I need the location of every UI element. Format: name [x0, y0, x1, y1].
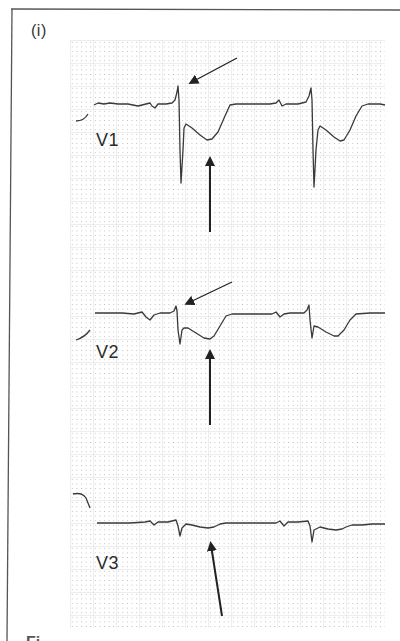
figure-caption-fragment: Fi [26, 634, 40, 641]
lead-label-v1: V1 [96, 130, 119, 151]
ecg-figure [0, 0, 400, 641]
lead-label-v3: V3 [96, 553, 119, 574]
panel-label: (i) [31, 22, 47, 40]
lead-label-v2: V2 [96, 342, 119, 363]
ecg-grid [70, 40, 385, 628]
